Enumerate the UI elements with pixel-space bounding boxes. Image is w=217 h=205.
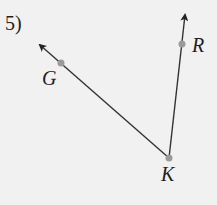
label-k: K bbox=[161, 164, 174, 184]
point-g bbox=[58, 60, 65, 67]
point-r bbox=[179, 41, 186, 48]
problem-number: 5) bbox=[5, 13, 22, 33]
angle-diagram bbox=[0, 0, 217, 205]
label-g: G bbox=[42, 68, 56, 88]
ray-kr bbox=[169, 15, 185, 158]
label-r: R bbox=[192, 35, 204, 55]
point-k bbox=[166, 155, 173, 162]
